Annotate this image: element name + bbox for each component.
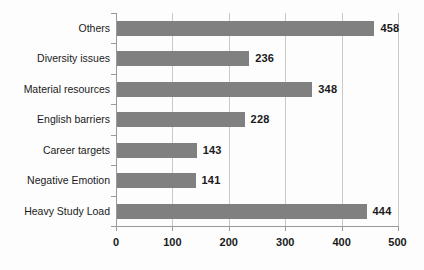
x-tick-label-400: 400 [332, 236, 350, 248]
gridline-500 [398, 13, 399, 226]
bar-value-others: 458 [380, 21, 399, 36]
bar-negative-emotion [116, 173, 196, 188]
bar-heavy-study-load [116, 204, 367, 219]
x-tick-label-100: 100 [163, 236, 181, 248]
bar-diversity-issues [116, 51, 249, 66]
category-label-negative-emotion: Negative Emotion [8, 173, 116, 188]
bar-others [116, 21, 374, 36]
x-axis-tick [116, 226, 117, 231]
gridline-300 [285, 13, 286, 226]
x-axis-tick [229, 226, 230, 231]
x-axis-tick [398, 226, 399, 231]
bar-value-heavy-study-load: 444 [373, 204, 392, 219]
category-label-english-barriers: English barriers [8, 112, 116, 127]
category-labels: Others Diversity issues Material resourc… [0, 13, 116, 226]
x-tick-label-500: 500 [388, 236, 406, 248]
x-tick-label-300: 300 [276, 236, 294, 248]
x-tick-label-0: 0 [113, 236, 119, 248]
bar-value-english-barriers: 228 [251, 112, 270, 127]
x-axis-tick [342, 226, 343, 231]
category-label-heavy-study-load: Heavy Study Load [8, 204, 116, 219]
bar-chart: 458 236 348 228 143 141 444 Others Diver… [0, 0, 424, 270]
category-label-diversity-issues: Diversity issues [8, 51, 116, 66]
bar-value-career-targets: 143 [203, 143, 222, 158]
x-axis-tick [285, 226, 286, 231]
category-label-others: Others [8, 21, 116, 36]
x-axis-tick [172, 226, 173, 231]
bar-value-negative-emotion: 141 [202, 173, 221, 188]
bar-value-diversity-issues: 236 [255, 51, 274, 66]
y-axis-line [116, 13, 117, 226]
gridline-400 [342, 13, 343, 226]
x-axis-line [116, 226, 399, 227]
plot-area: 458 236 348 228 143 141 444 [116, 13, 398, 226]
bar-career-targets [116, 143, 197, 158]
category-label-material-resources: Material resources [8, 82, 116, 97]
category-label-career-targets: Career targets [8, 143, 116, 158]
x-tick-label-200: 200 [220, 236, 238, 248]
bar-english-barriers [116, 112, 245, 127]
bar-material-resources [116, 82, 312, 97]
bar-value-material-resources: 348 [318, 82, 337, 97]
